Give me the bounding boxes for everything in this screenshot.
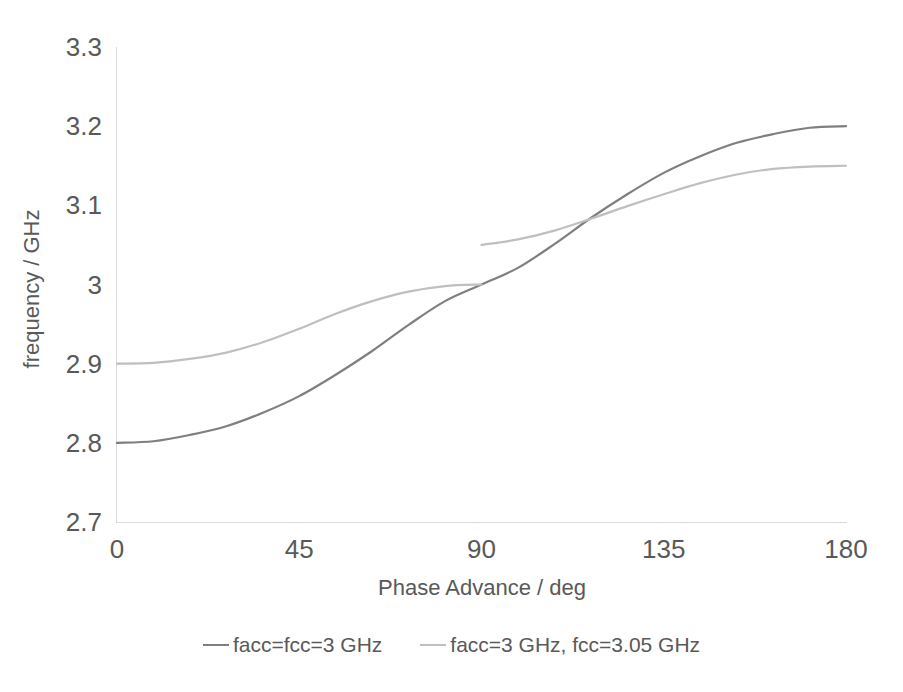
plot-area [117, 47, 846, 522]
legend-item[interactable]: facc=3 GHz, fcc=3.05 GHz [420, 633, 700, 657]
legend-item[interactable]: facc=fcc=3 GHz [203, 633, 382, 657]
y-axis-tick-label: 2.8 [34, 430, 102, 456]
chart-legend: facc=fcc=3 GHzfacc=3 GHz, fcc=3.05 GHz [0, 633, 903, 657]
y-axis-title: frequency / GHz [19, 164, 45, 414]
legend-line-icon [420, 644, 446, 646]
y-axis-tick-label: 2.7 [34, 509, 102, 535]
chart-container: 2.72.82.933.13.23.3 04590135180 Phase Ad… [0, 0, 903, 692]
x-axis-line [117, 522, 847, 523]
x-axis-tick-label: 0 [110, 534, 124, 564]
x-axis-tick-label: 90 [467, 534, 496, 564]
y-axis-tick-label: 3.3 [34, 34, 102, 60]
x-axis-tick-labels: 04590135180 [0, 534, 903, 574]
legend-item-label: facc=3 GHz, fcc=3.05 GHz [450, 633, 700, 657]
x-axis-tick-label: 135 [642, 534, 685, 564]
series-line-1-branch-0 [117, 285, 482, 364]
x-axis-tick-label: 45 [285, 534, 314, 564]
x-axis-title: Phase Advance / deg [117, 575, 847, 601]
series-line-1-branch-1 [482, 166, 847, 245]
series-canvas [117, 47, 846, 522]
legend-line-icon [203, 644, 229, 646]
x-axis-tick-label: 180 [824, 534, 867, 564]
y-axis-tick-label: 3.2 [34, 113, 102, 139]
legend-item-label: facc=fcc=3 GHz [233, 633, 382, 657]
